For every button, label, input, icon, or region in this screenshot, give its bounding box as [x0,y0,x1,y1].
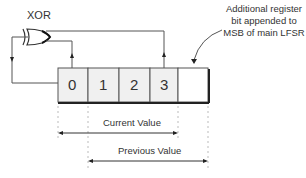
register-cell-extra [178,68,208,102]
cell-label-2: 2 [130,76,138,93]
tap-arrow-3 [162,52,166,57]
annotation-line-2: bit appended to [220,15,306,27]
cell-label-3: 3 [160,76,168,93]
current-value-label: Current Value [103,117,161,128]
annotation-line-1: Additional register [220,3,306,15]
annotation-line-3: MSB of main LFSR [220,27,306,39]
xor-label: XOR [27,9,51,21]
feedback-arrow [10,57,14,62]
cell-label-1: 1 [99,76,107,93]
annotation-pointer [194,30,222,60]
annotation-text: Additional register bit appended to MSB … [220,3,306,39]
range-guides [58,106,208,168]
tap-arrow-0 [70,53,74,58]
previous-value-label: Previous Value [118,145,181,156]
previous-value-range [88,159,208,163]
current-value-range [58,131,178,135]
cell-label-0: 0 [68,76,76,93]
